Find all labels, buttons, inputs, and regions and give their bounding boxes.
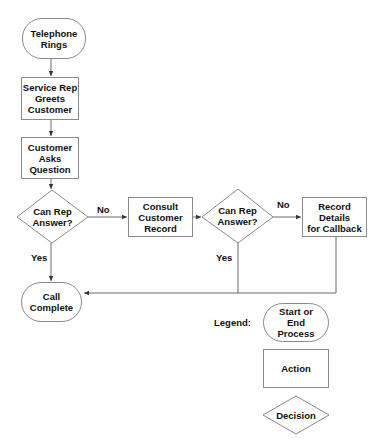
legend-label: Decision (276, 410, 316, 421)
node-label: Record Details for Callback (303, 201, 366, 234)
edge-label-d2-no: No (277, 199, 290, 210)
node-decision-1: Can Rep Answer? (17, 190, 88, 243)
node-label: Call Complete (22, 291, 81, 313)
node-service-rep-greets: Service Rep Greets Customer (21, 77, 79, 120)
legend-start-end: Start or End Process (263, 303, 329, 342)
node-label: Service Rep Greets Customer (23, 82, 77, 115)
node-consult-record: Consult Customer Record (128, 197, 193, 237)
node-label: Consult Customer Record (138, 201, 182, 234)
node-label: Can Rep Answer? (217, 205, 257, 227)
legend-title: Legend: (214, 317, 251, 328)
edge-label-d2-yes: Yes (216, 252, 232, 263)
node-label: Can Rep Answer? (32, 206, 72, 228)
node-label: Telephone Rings (31, 28, 78, 50)
legend-decision: Decision (263, 396, 329, 434)
edge-label-d1-yes: Yes (31, 252, 47, 263)
legend-action: Action (263, 349, 329, 388)
legend-label: Start or End Process (278, 306, 315, 339)
node-telephone-rings: Telephone Rings (22, 18, 86, 59)
node-label: Customer Asks Question (28, 142, 72, 175)
node-customer-asks: Customer Asks Question (21, 137, 79, 179)
node-decision-2: Can Rep Answer? (202, 189, 273, 243)
edge-label-d1-no: No (97, 204, 110, 215)
legend-label: Action (281, 363, 311, 374)
node-call-complete: Call Complete (21, 282, 82, 322)
node-record-details: Record Details for Callback (302, 197, 367, 237)
